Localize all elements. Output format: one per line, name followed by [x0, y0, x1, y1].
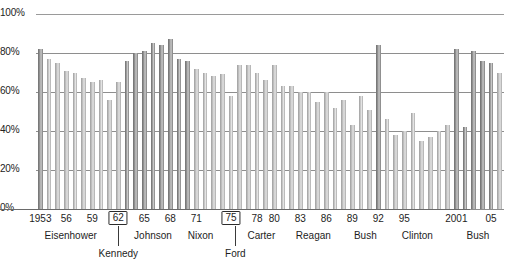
y-tick-label-60: 60% — [0, 86, 32, 96]
bar-1963 — [125, 61, 130, 209]
era-connector-ford — [235, 226, 236, 246]
bar-1974 — [220, 74, 225, 209]
x-tick-label-92: 92 — [373, 213, 384, 224]
x-tick-label-1953: 1953 — [29, 213, 51, 224]
y-tick-label-20: 20% — [0, 164, 32, 174]
bar-series — [36, 14, 504, 209]
bar-1954 — [47, 59, 52, 209]
era-label-eisenhower-1953: Eisenhower — [45, 230, 97, 241]
bar-1967 — [159, 45, 164, 209]
bar-1984 — [307, 92, 312, 209]
x-tick-label-78: 78 — [251, 213, 262, 224]
bar-1989 — [350, 125, 355, 209]
x-tick-label-95: 95 — [399, 213, 410, 224]
x-axis: 19535659626568717578808386899295200105 E… — [36, 211, 506, 271]
era-label-bush-2001: Bush — [467, 230, 490, 241]
x-tick-label-75: 75 — [221, 211, 240, 225]
x-tick-label-71: 71 — [191, 213, 202, 224]
x-tick-label-65: 65 — [139, 213, 150, 224]
bar-2004 — [480, 61, 485, 209]
bar-1957 — [73, 73, 78, 210]
bar-1998 — [428, 137, 433, 209]
bar-1999 — [437, 131, 442, 209]
bar-1953 — [38, 49, 43, 209]
y-tick-label-100: 100% — [0, 8, 32, 18]
bar-1956 — [64, 71, 69, 209]
y-tick-label-80: 80% — [0, 47, 32, 57]
bar-1997 — [419, 141, 424, 209]
x-tick-label-80: 80 — [269, 213, 280, 224]
era-label-bush-1989: Bush — [354, 230, 377, 241]
x-tick-label-56: 56 — [61, 213, 72, 224]
bar-1975 — [229, 96, 234, 209]
x-axis-baseline — [0, 209, 470, 210]
bar-1978 — [255, 73, 260, 210]
bar-2005 — [489, 63, 494, 209]
era-label-clinton-1993: Clinton — [402, 230, 433, 241]
bar-1968 — [168, 39, 173, 209]
bar-1980 — [272, 65, 277, 209]
bar-1965 — [142, 51, 147, 209]
bar-1971 — [194, 69, 199, 209]
bar-1958 — [81, 78, 86, 209]
bar-2000 — [445, 125, 450, 209]
x-tick-label-89: 89 — [347, 213, 358, 224]
bar-2001 — [454, 49, 459, 209]
era-label-ford-1975: Ford — [225, 248, 246, 259]
bar-2003 — [471, 51, 476, 209]
bar-1986 — [324, 92, 329, 209]
era-label-carter-1977: Carter — [247, 230, 275, 241]
bar-1996 — [411, 113, 416, 209]
era-label-kennedy-1961: Kennedy — [99, 248, 138, 259]
bar-1969 — [177, 59, 182, 209]
bar-1990 — [359, 96, 364, 209]
bar-1966 — [151, 43, 156, 209]
plot-area — [36, 14, 504, 209]
x-tick-label-59: 59 — [87, 213, 98, 224]
bar-1987 — [333, 108, 338, 209]
y-tick-label-40: 40% — [0, 125, 32, 135]
bar-1993 — [385, 119, 390, 209]
era-label-johnson-1964: Johnson — [134, 230, 172, 241]
bar-1962 — [116, 82, 121, 209]
bar-1961 — [107, 100, 112, 209]
era-label-reagan-1981: Reagan — [296, 230, 331, 241]
x-tick-label-2001: 2001 — [445, 213, 467, 224]
x-tick-label-05: 05 — [485, 213, 496, 224]
bar-1970 — [185, 61, 190, 209]
era-connector-kennedy — [118, 226, 119, 246]
bar-1991 — [367, 110, 372, 209]
bar-1973 — [211, 76, 216, 209]
era-label-nixon-1969: Nixon — [188, 230, 214, 241]
bar-1977 — [246, 65, 251, 209]
bar-1979 — [263, 80, 268, 209]
bar-1981 — [281, 86, 286, 209]
bar-1992 — [376, 45, 381, 209]
x-tick-label-86: 86 — [321, 213, 332, 224]
bar-2002 — [463, 127, 468, 209]
chart-container: 0%20%40%60%80%100% 195356596265687175788… — [0, 0, 509, 272]
bar-1972 — [203, 73, 208, 210]
x-tick-label-83: 83 — [295, 213, 306, 224]
bar-1985 — [315, 102, 320, 209]
y-tick-label-0: 0% — [0, 203, 32, 213]
bar-1983 — [298, 92, 303, 209]
x-tick-label-68: 68 — [165, 213, 176, 224]
bar-1982 — [289, 86, 294, 209]
x-tick-label-62: 62 — [109, 211, 128, 225]
bar-1959 — [90, 82, 95, 209]
bar-1960 — [99, 80, 104, 209]
bar-2006 — [497, 73, 502, 210]
bar-1964 — [133, 53, 138, 209]
bar-1955 — [55, 63, 60, 209]
bar-1976 — [237, 65, 242, 209]
bar-1994 — [393, 135, 398, 209]
bar-1995 — [402, 131, 407, 209]
bar-1988 — [341, 100, 346, 209]
